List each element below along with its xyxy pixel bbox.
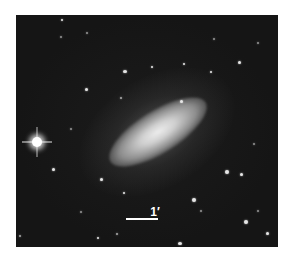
bright-star — [32, 137, 42, 147]
scale-bar-label: 1′ — [140, 206, 170, 218]
star — [240, 173, 243, 176]
star — [266, 232, 269, 235]
star — [86, 32, 88, 34]
star — [116, 233, 118, 235]
star — [85, 88, 88, 91]
star — [180, 100, 183, 103]
star — [200, 210, 202, 212]
star — [60, 36, 62, 38]
star — [225, 170, 229, 174]
star — [210, 71, 212, 73]
star — [178, 242, 182, 245]
star — [192, 198, 196, 202]
star — [123, 70, 127, 73]
star — [257, 42, 259, 44]
star — [151, 66, 153, 68]
star — [213, 38, 215, 40]
star — [80, 211, 82, 213]
star — [52, 168, 55, 171]
galaxy-image: 1′ — [16, 15, 278, 247]
star — [123, 192, 125, 194]
star — [244, 220, 248, 224]
star — [257, 210, 259, 212]
star — [61, 19, 63, 21]
star — [100, 178, 103, 181]
star — [19, 235, 21, 237]
star — [97, 237, 99, 239]
scale-bar — [126, 218, 158, 220]
star — [253, 143, 255, 145]
star — [183, 63, 185, 65]
star — [70, 128, 72, 130]
star — [238, 61, 241, 64]
star — [120, 97, 122, 99]
